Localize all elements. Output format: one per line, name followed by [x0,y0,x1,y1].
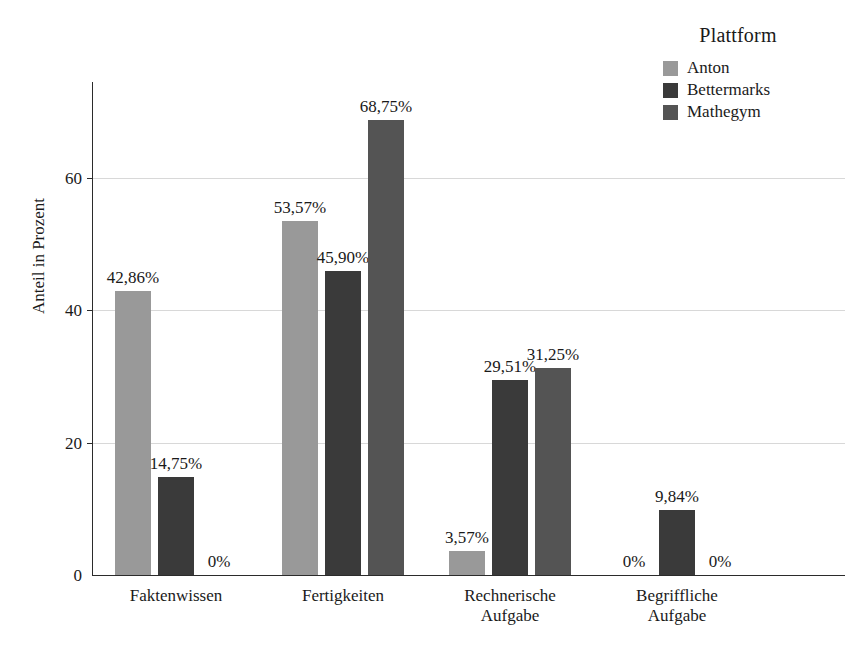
y-axis-line [92,82,93,576]
bar-mathegym-group2[interactable] [368,120,404,575]
y-axis-ticks: 0204060 [16,0,82,655]
y-tick-label-20: 20 [36,434,82,451]
bar-chart-figure: Plattform Anton Bettermarks Mathegym Ant… [0,0,851,655]
x-category-label-3: Rechnerische Aufgabe [464,586,556,626]
x-category-label-4: Begriffliche Aufgabe [636,586,718,626]
y-tick-mark-40 [87,310,93,311]
y-tick-mark-60 [87,178,93,179]
y-tick-label-0: 0 [36,567,82,584]
bar-value-bettermarks-group2: 45,90% [317,249,369,266]
plot-area: 42,86%14,75%0%53,57%45,90%68,75%3,57%29,… [92,82,845,575]
gridline-20 [92,443,845,444]
bar-mathegym-group3[interactable] [535,368,571,575]
x-category-label-2: Fertigkeiten [302,586,384,606]
y-tick-label-40: 40 [36,302,82,319]
bar-bettermarks-group1[interactable] [158,477,194,575]
bar-value-anton-group4: 0% [623,553,646,570]
bar-value-bettermarks-group4: 9,84% [655,488,699,505]
legend-item-anton: Anton [663,57,845,79]
y-tick-label-60: 60 [36,170,82,187]
bar-value-anton-group2: 53,57% [274,199,326,216]
x-axis-line [92,575,845,576]
bar-bettermarks-group3[interactable] [492,380,528,575]
bar-value-mathegym-group2: 68,75% [360,98,412,115]
bar-anton-group2[interactable] [282,221,318,575]
bar-value-mathegym-group3: 31,25% [527,346,579,363]
bar-bettermarks-group4[interactable] [659,510,695,575]
legend-label-anton: Anton [687,58,730,78]
bar-anton-group3[interactable] [449,551,485,575]
bar-bettermarks-group2[interactable] [325,271,361,575]
x-category-label-1: Faktenwissen [130,586,223,606]
bar-value-anton-group3: 3,57% [445,529,489,546]
legend-swatch-anton [663,61,678,76]
gridline-40 [92,310,845,311]
y-tick-mark-20 [87,443,93,444]
bar-anton-group1[interactable] [115,291,151,575]
bar-value-mathegym-group1: 0% [208,553,231,570]
legend-title: Plattform [645,24,845,47]
bar-value-bettermarks-group1: 14,75% [150,455,202,472]
gridline-60 [92,178,845,179]
bar-value-mathegym-group4: 0% [709,553,732,570]
bar-value-anton-group1: 42,86% [107,269,159,286]
